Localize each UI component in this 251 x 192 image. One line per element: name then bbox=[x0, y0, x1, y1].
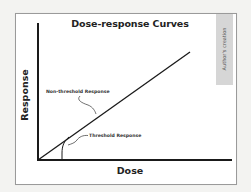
threshold-curve bbox=[62, 137, 69, 160]
x-axis-label: Dose bbox=[100, 165, 160, 176]
threshold-label: Threshold Response bbox=[89, 133, 141, 138]
y-axis-label: Response bbox=[19, 60, 30, 130]
plot-area bbox=[0, 0, 251, 192]
non-threshold-curve bbox=[38, 52, 190, 160]
figure-canvas: Author's creation Dose-response Curves N… bbox=[0, 0, 251, 192]
non-threshold-leader bbox=[79, 96, 96, 114]
non-threshold-label: Non-threshold Response bbox=[46, 89, 110, 94]
